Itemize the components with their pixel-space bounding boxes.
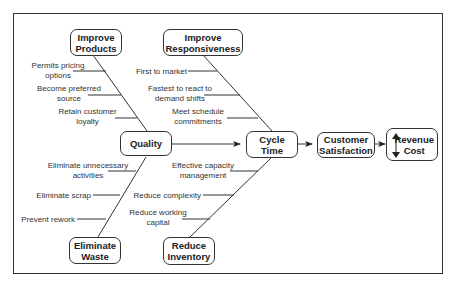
- node-quality: Quality: [120, 131, 172, 156]
- node-improve-responsiveness: Improve Responsiveness: [163, 29, 243, 56]
- node-customer-satisfaction: Customer Satisfaction: [317, 132, 375, 158]
- cause-label: Eliminate unnecessary activities: [43, 161, 133, 181]
- node-improve-products: Improve Products: [70, 29, 122, 56]
- up-down-arrow-icon: [391, 133, 401, 158]
- cause-label: Become preferred source: [34, 84, 104, 104]
- node-revenue-cost: Revenue Cost: [386, 128, 438, 161]
- node-label: Quality: [130, 138, 162, 149]
- cause-label: Eliminate scrap: [20, 191, 91, 201]
- node-eliminate-waste: Eliminate Waste: [69, 237, 121, 264]
- cause-label: Reduce working capital: [125, 208, 191, 228]
- node-label: Improve Responsiveness: [166, 32, 241, 54]
- node-label: Reduce Inventory: [168, 240, 211, 262]
- cause-label: Reduce complexity: [125, 191, 201, 201]
- node-label: Cycle Time: [259, 134, 284, 156]
- cause-label: Meet schedule commitments: [167, 107, 229, 127]
- node-label: Improve Products: [75, 32, 116, 54]
- cause-label: Permits pricing options: [28, 61, 88, 81]
- cause-label: Effective capacity management: [163, 161, 243, 181]
- node-label: Eliminate Waste: [74, 240, 116, 262]
- cause-label: Retain customer loyalty: [55, 107, 120, 127]
- cause-label: Fastest to react to demand shifts: [140, 84, 220, 104]
- node-cycle-time: Cycle Time: [246, 131, 298, 158]
- node-reduce-inventory: Reduce Inventory: [163, 237, 215, 265]
- cause-label: Prevent rework: [10, 215, 75, 225]
- node-label: Customer Satisfaction: [319, 134, 373, 156]
- cause-label: First to market: [120, 67, 187, 77]
